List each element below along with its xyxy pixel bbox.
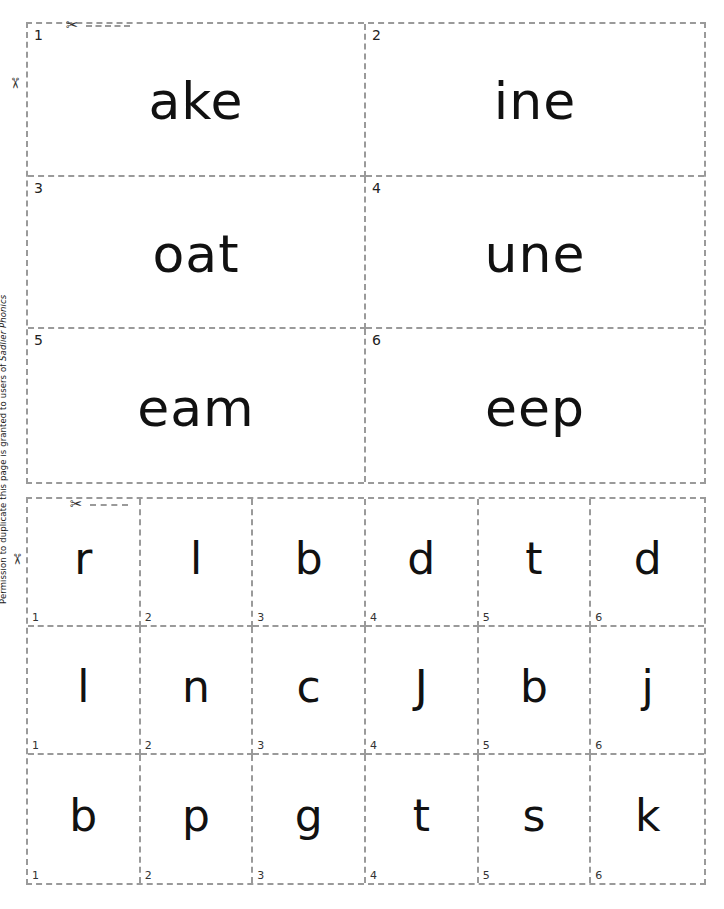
letter-card[interactable]: d 6 [591,499,704,627]
card-number: 3 [257,740,264,751]
card-number: 2 [145,870,152,881]
card-text: t [525,533,542,584]
letter-card[interactable]: d 4 [366,499,479,627]
letter-card[interactable]: n 2 [141,627,254,755]
card-text: b [520,661,548,712]
permission-note-text: Permission to duplicate this page is gra… [0,361,8,604]
card-number: 1 [32,612,39,623]
permission-note: Permission to duplicate this page is gra… [0,304,8,604]
card-text: p [182,790,210,841]
scissors-icon: ✂ [9,553,24,566]
card-number: 1 [34,28,43,42]
letter-card[interactable]: b 5 [479,627,592,755]
card-number: 4 [370,740,377,751]
letter-card[interactable]: l 2 [141,499,254,627]
card-text: b [69,790,97,841]
card-text: oat [152,224,239,284]
card-text: j [642,661,654,712]
card-text: d [634,533,662,584]
letter-card[interactable]: b 1 [28,755,141,883]
card-text: g [295,790,323,841]
letter-card[interactable]: l 1 [28,627,141,755]
rime-card[interactable]: 1 ake [28,24,366,177]
rime-card[interactable]: 2 ine [366,24,704,177]
card-number: 5 [34,333,43,347]
letter-card[interactable]: t 4 [366,755,479,883]
permission-note-brand: Sadlier Phonics [0,295,8,361]
card-number: 6 [372,333,381,347]
card-text: r [74,533,92,584]
rime-card[interactable]: 3 oat [28,177,366,330]
letter-card[interactable]: c 3 [253,627,366,755]
card-number: 3 [257,870,264,881]
card-text: eep [485,378,585,438]
card-number: 4 [372,181,381,195]
card-text: t [413,790,430,841]
card-number: 2 [372,28,381,42]
card-number: 1 [32,740,39,751]
letter-cards-grid: r 1 l 2 b 3 d 4 t 5 d 6 [28,499,704,883]
rime-cards-grid: 1 ake 2 ine 3 oat 4 une 5 eam 6 eep [28,24,704,482]
letter-card[interactable]: J 4 [366,627,479,755]
scissors-icon: ✂ [7,77,22,90]
rime-card[interactable]: 6 eep [366,329,704,482]
rime-card[interactable]: 5 eam [28,329,366,482]
card-text: ine [494,71,576,131]
card-number: 5 [483,740,490,751]
card-number: 4 [370,870,377,881]
card-text: c [297,661,321,712]
card-text: d [407,533,435,584]
rime-card[interactable]: 4 une [366,177,704,330]
letter-card[interactable]: t 5 [479,499,592,627]
card-number: 6 [595,870,602,881]
scissors-icon: ✂ [70,497,83,512]
card-number: 2 [145,612,152,623]
letter-card[interactable]: k 6 [591,755,704,883]
card-number: 5 [483,870,490,881]
card-number: 2 [145,740,152,751]
rime-cards-section: 1 ake 2 ine 3 oat 4 une 5 eam 6 eep [26,22,706,484]
letter-card[interactable]: s 5 [479,755,592,883]
card-text: b [295,533,323,584]
card-text: l [77,661,89,712]
card-text: l [190,533,202,584]
letter-card[interactable]: r 1 [28,499,141,627]
card-text: eam [137,378,255,438]
letter-card[interactable]: g 3 [253,755,366,883]
letter-card[interactable]: b 3 [253,499,366,627]
letter-card[interactable]: j 6 [591,627,704,755]
card-text: n [182,661,210,712]
card-number: 3 [34,181,43,195]
letter-cards-section: r 1 l 2 b 3 d 4 t 5 d 6 [26,497,706,885]
card-number: 6 [595,740,602,751]
card-text: s [523,790,546,841]
card-text: k [635,790,660,841]
card-number: 5 [483,612,490,623]
card-number: 3 [257,612,264,623]
card-number: 4 [370,612,377,623]
cut-line-horizontal [86,25,130,27]
cut-line-horizontal [90,504,128,506]
card-number: 1 [32,870,39,881]
card-text: J [415,661,428,712]
worksheet-page: 1 ake 2 ine 3 oat 4 une 5 eam 6 eep [0,0,724,909]
card-number: 6 [595,612,602,623]
letter-card[interactable]: p 2 [141,755,254,883]
card-text: une [485,224,586,284]
scissors-icon: ✂ [66,18,79,33]
card-text: ake [148,71,243,131]
